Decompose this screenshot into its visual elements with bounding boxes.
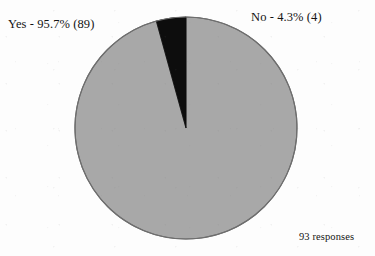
slice-label-yes: Yes - 95.7% (89)	[8, 18, 94, 32]
pie-chart-graphic	[0, 0, 375, 256]
slice-label-no: No - 4.3% (4)	[251, 11, 322, 25]
pie-chart-figure: Yes - 95.7% (89) No - 4.3% (4) 93 respon…	[0, 0, 375, 256]
responses-caption: 93 responses	[299, 231, 354, 242]
